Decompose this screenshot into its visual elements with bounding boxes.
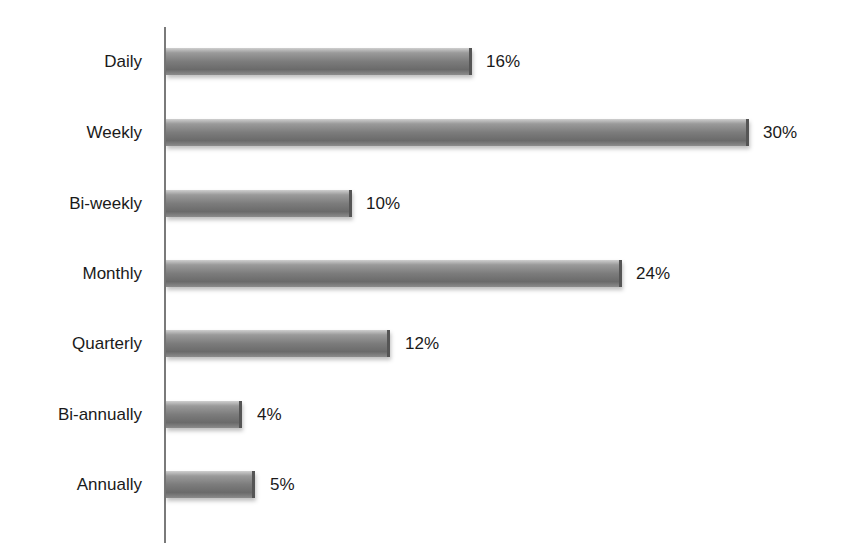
bar-row-annually: Annually 5%: [0, 471, 846, 499]
value-label: 5%: [270, 471, 295, 499]
category-label: Monthly: [82, 260, 142, 288]
value-label: 10%: [366, 190, 400, 218]
bar-row-bi-weekly: Bi-weekly 10%: [0, 190, 846, 218]
bar-row-quarterly: Quarterly 12%: [0, 330, 846, 358]
bar-row-weekly: Weekly 30%: [0, 119, 846, 147]
bar-daily: [166, 48, 472, 75]
bar-row-bi-annually: Bi-annually 4%: [0, 401, 846, 429]
bar-bi-annually: [166, 401, 242, 428]
category-label: Daily: [104, 48, 142, 76]
category-label: Bi-annually: [58, 401, 142, 429]
category-label: Bi-weekly: [69, 190, 142, 218]
category-label: Quarterly: [72, 330, 142, 358]
value-label: 30%: [763, 119, 797, 147]
bar-quarterly: [166, 330, 390, 357]
category-label: Annually: [77, 471, 142, 499]
bar-monthly: [166, 260, 622, 287]
bar-bi-weekly: [166, 190, 352, 217]
value-label: 12%: [405, 330, 439, 358]
bar-weekly: [166, 119, 749, 146]
value-label: 16%: [486, 48, 520, 76]
category-label: Weekly: [87, 119, 142, 147]
value-label: 4%: [257, 401, 282, 429]
value-label: 24%: [636, 260, 670, 288]
bar-row-monthly: Monthly 24%: [0, 260, 846, 288]
bar-row-daily: Daily 16%: [0, 48, 846, 76]
bar-annually: [166, 471, 255, 498]
